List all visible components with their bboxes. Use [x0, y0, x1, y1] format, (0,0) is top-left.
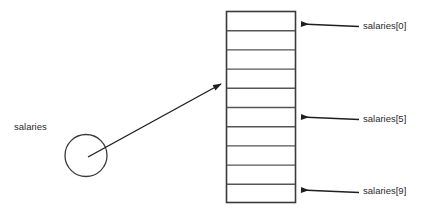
- index-arrow-0: [301, 24, 359, 27]
- reference-arrow: [88, 84, 221, 157]
- array-index-label-0: salaries[0]: [363, 21, 406, 31]
- index-arrow-9: [301, 190, 359, 193]
- pointer-variable-label: salaries: [14, 122, 47, 132]
- diagram-canvas: salaries salaries[0] salaries[5] salarie…: [0, 0, 432, 212]
- diagram-graphics: [0, 0, 432, 212]
- array-index-label-5: salaries[5]: [363, 114, 406, 124]
- index-arrow-5: [301, 117, 359, 120]
- array-index-label-9: salaries[9]: [363, 186, 406, 196]
- pointer-circle: [65, 135, 107, 177]
